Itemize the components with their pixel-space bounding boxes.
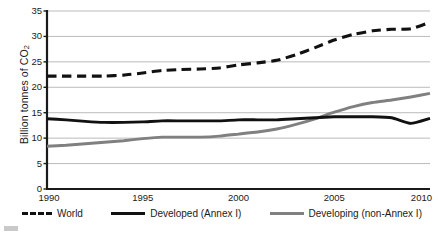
dashed-black-line-icon <box>22 212 52 215</box>
x-tick-label: 1990 <box>38 193 59 203</box>
legend-item-label: Developed (Annex I) <box>150 208 241 219</box>
x-tick-label: 1995 <box>132 193 153 203</box>
data-series-group <box>47 22 430 146</box>
gridlines <box>47 11 430 164</box>
x-tick-label: 2000 <box>228 193 249 203</box>
line-chart: Billion tonnes of CO2 05101520253035 199… <box>0 0 438 234</box>
legend-item-label: World <box>57 208 83 219</box>
series-line-developed-annex-i <box>47 117 430 124</box>
solid-gray-line-icon <box>270 212 304 215</box>
solid-black-line-icon <box>111 212 145 215</box>
series-line-world <box>47 22 430 76</box>
legend-item-world[interactable]: World <box>22 208 83 219</box>
corner-mark <box>4 226 18 231</box>
plot-area <box>0 0 438 234</box>
chart-legend: WorldDeveloped (Annex I)Developing (non-… <box>22 203 422 223</box>
x-tick-label: 2005 <box>324 193 345 203</box>
x-tick-label: 2010 <box>411 193 432 203</box>
legend-item-developed-annex-i[interactable]: Developed (Annex I) <box>111 208 241 219</box>
legend-item-label: Developing (non-Annex I) <box>309 208 422 219</box>
legend-item-developing-non-annex-i[interactable]: Developing (non-Annex I) <box>270 208 422 219</box>
